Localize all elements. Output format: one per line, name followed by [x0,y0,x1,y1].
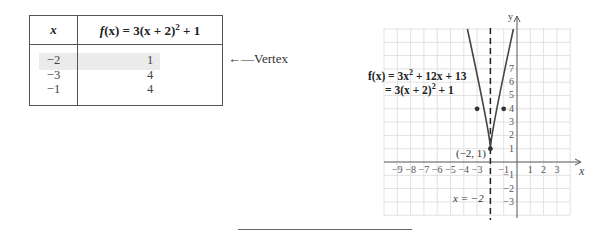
svg-text:−6: −6 [432,164,443,175]
svg-text:4: 4 [509,103,514,114]
svg-text:7: 7 [509,63,514,74]
svg-text:2: 2 [509,129,514,140]
svg-text:−8: −8 [405,164,416,175]
point-neg1-4 [501,106,506,111]
svg-text:−3: −3 [503,196,514,207]
vertex-point [488,146,493,151]
parabola-graph: −9 −8 −7 −6 −5 −4 −3 −1 1 2 3 7 6 5 4 3 … [0,0,616,232]
svg-text:−7: −7 [419,164,430,175]
axis-of-symmetry-label: x = −2 [452,192,484,204]
svg-text:6: 6 [509,76,514,87]
function-label-vertex-form: = 3(x + 2)2 + 1 [385,82,454,96]
x-tick-labels: −9 −8 −7 −6 −5 −4 −3 −1 1 2 3 [392,164,559,175]
point-neg3-4 [475,106,480,111]
svg-text:−9: −9 [392,164,403,175]
svg-text:1: 1 [509,143,514,154]
svg-text:1: 1 [528,164,533,175]
y-tick-labels: 7 6 5 4 3 2 1 −1 −2 −3 [503,63,514,208]
svg-text:−2: −2 [503,183,514,194]
svg-text:3: 3 [554,164,559,175]
svg-text:3: 3 [509,116,514,127]
divider-rule [238,229,412,230]
svg-text:5: 5 [509,89,514,100]
svg-text:−4: −4 [458,164,469,175]
svg-text:−1: −1 [503,169,514,180]
function-label-standard: f(x) = 3x2 + 12x + 13 [368,68,466,82]
vertex-coordinate-label: (−2, 1) [456,147,486,160]
svg-text:−5: −5 [445,164,456,175]
svg-text:2: 2 [541,164,546,175]
grid [384,28,570,215]
y-axis-label: y [508,11,513,22]
x-axis-label: x [578,164,585,178]
svg-text:−3: −3 [472,164,483,175]
